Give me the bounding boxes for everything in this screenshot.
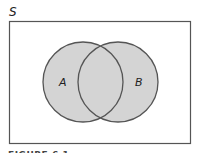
set-a-label: A [58,76,67,89]
venn-diagram: S A B [0,0,197,153]
figure-caption: FIGURE 6.1 [8,148,69,153]
universe-label: S [9,5,17,19]
set-b-label: B [135,76,143,89]
